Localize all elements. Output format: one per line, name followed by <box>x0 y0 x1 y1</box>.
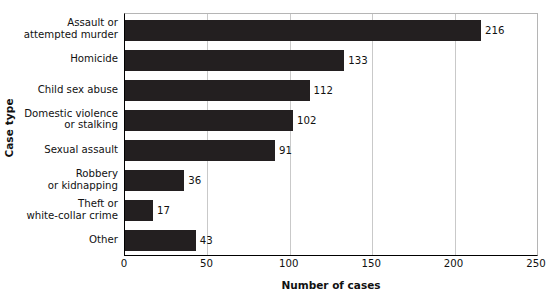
bar-value-label: 102 <box>297 110 316 131</box>
x-axis-tick-labels: 050100150200250 <box>124 258 538 274</box>
bar <box>125 140 275 161</box>
bar-value-label: 216 <box>485 20 504 41</box>
x-tick-label: 250 <box>526 258 545 269</box>
bar-value-label: 17 <box>157 200 170 221</box>
category-label: Child sex abuse <box>18 84 118 96</box>
gridline <box>372 14 373 255</box>
category-label: Sexual assault <box>18 144 118 156</box>
category-label: Other <box>18 234 118 246</box>
category-label: Assault or attempted murder <box>18 17 118 40</box>
bar <box>125 80 310 101</box>
bar <box>125 20 481 41</box>
x-axis-title: Number of cases <box>124 279 538 291</box>
y-axis-title: Case type <box>0 0 18 256</box>
gridline <box>455 14 456 255</box>
category-label: Theft or white-collar crime <box>18 198 118 221</box>
x-tick-label: 150 <box>361 258 380 269</box>
category-label: Robbery or kidnapping <box>18 168 118 191</box>
bar <box>125 50 344 71</box>
bar-value-label: 112 <box>314 80 333 101</box>
bar <box>125 230 196 251</box>
bar <box>125 200 153 221</box>
y-axis-category-labels: Assault or attempted murderHomicideChild… <box>18 13 121 256</box>
bar <box>125 170 184 191</box>
x-tick-label: 50 <box>200 258 213 269</box>
bar-value-label: 36 <box>188 170 201 191</box>
bar <box>125 110 293 131</box>
plot-area: 21613311210291361743 <box>124 13 538 256</box>
y-axis-title-text: Case type <box>3 98 15 157</box>
x-tick-label: 0 <box>121 258 127 269</box>
bar-value-label: 91 <box>279 140 292 161</box>
x-tick-label: 100 <box>279 258 298 269</box>
bar-chart: Case type Assault or attempted murderHom… <box>0 0 557 301</box>
category-label: Homicide <box>18 53 118 65</box>
x-tick-label: 200 <box>444 258 463 269</box>
bar-value-label: 133 <box>348 50 367 71</box>
category-label: Domestic violence or stalking <box>18 108 118 131</box>
bar-value-label: 43 <box>200 230 213 251</box>
